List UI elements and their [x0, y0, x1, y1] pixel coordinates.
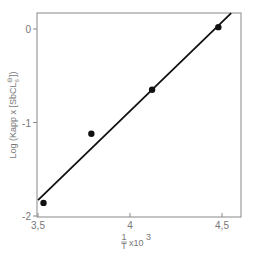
svg-text:T: T	[121, 241, 127, 251]
svg-text:3: 3	[146, 232, 151, 242]
data-point	[149, 87, 155, 93]
plot-frame	[37, 13, 241, 217]
y-axis-ticks: 0-1-2	[22, 24, 37, 222]
svg-text:Log (Kapp x [SbCL6⊖]): Log (Kapp x [SbCL6⊖])	[6, 72, 20, 159]
x-tick-label: 4,5	[215, 220, 229, 231]
svg-text:x10: x10	[129, 238, 144, 248]
y-tick-label: -2	[22, 211, 31, 222]
x-tick-label: 3,5	[31, 220, 45, 231]
y-tick-label: -1	[22, 118, 31, 129]
data-point	[40, 200, 46, 206]
x-axis-label: 1 T x10 3	[121, 232, 151, 251]
data-point	[88, 131, 94, 137]
x-tick-label: 4	[127, 220, 133, 231]
data-point	[215, 24, 221, 30]
fit-line	[38, 13, 231, 200]
x-axis-ticks: 3,544,5	[31, 213, 229, 231]
chart: 0-1-2 3,544,5 Log (Kapp x [SbCL6⊖]) 1 T …	[0, 0, 257, 256]
y-tick-label: 0	[25, 24, 31, 35]
y-axis-label: Log (Kapp x [SbCL6⊖])	[6, 72, 20, 159]
data-points	[40, 24, 221, 206]
